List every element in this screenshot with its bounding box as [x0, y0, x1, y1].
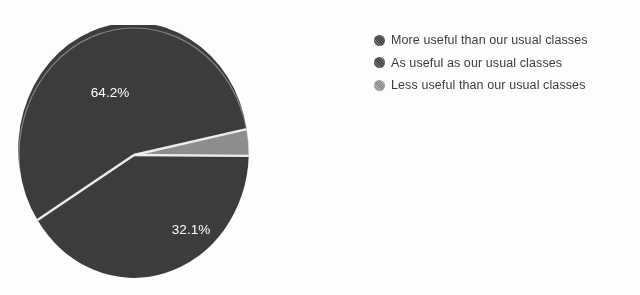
pie-chart-graphic: 64.2% 32.1%	[18, 25, 252, 283]
legend-item-as-useful: As useful as our usual classes	[374, 52, 624, 75]
legend-swatch-icon	[374, 57, 385, 68]
legend-label-as-useful: As useful as our usual classes	[391, 56, 562, 70]
chart-legend: More useful than our usual classes As us…	[374, 29, 624, 97]
legend-item-more-useful: More useful than our usual classes	[374, 29, 624, 52]
pie-chart-figure: 64.2% 32.1% More useful than our usual c…	[0, 0, 640, 295]
legend-label-less-useful: Less useful than our usual classes	[391, 78, 585, 92]
legend-item-less-useful: Less useful than our usual classes	[374, 74, 624, 97]
pie-data-label-more-useful: 64.2%	[91, 85, 129, 100]
pie-svg: 64.2% 32.1%	[18, 25, 252, 283]
pie-data-label-as-useful: 32.1%	[172, 222, 210, 237]
legend-label-more-useful: More useful than our usual classes	[391, 33, 588, 47]
legend-swatch-icon	[374, 80, 385, 91]
legend-swatch-icon	[374, 35, 385, 46]
